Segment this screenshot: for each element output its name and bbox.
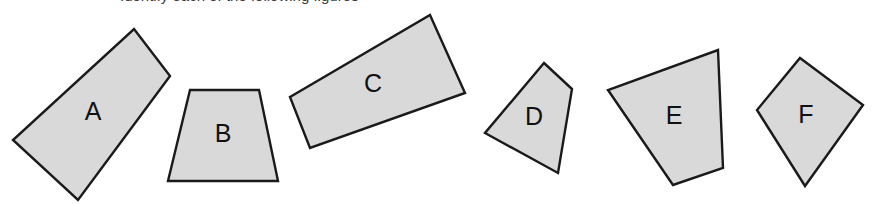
shapes-group: A B C D E F [0,0,887,205]
shape-label-c: C [364,69,382,97]
shape-label-b: B [215,119,232,147]
shape-label-f: F [798,100,813,128]
shape-label-a: A [85,97,102,125]
shape-label-e: E [666,101,683,129]
figure-canvas: Identify each of the following figures A… [0,0,887,205]
shape-label-d: D [525,102,543,130]
